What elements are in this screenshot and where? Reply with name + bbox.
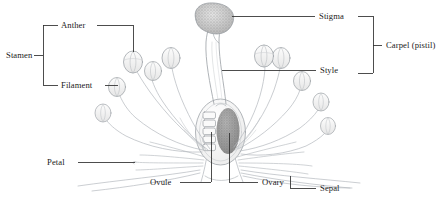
label-sepal: Sepal xyxy=(320,184,340,193)
label-anther: Anther xyxy=(61,21,85,30)
label-ovary: Ovary xyxy=(262,178,284,187)
anther-leader xyxy=(97,25,133,52)
label-stigma: Stigma xyxy=(319,12,344,21)
label-stamen: Stamen xyxy=(6,51,32,60)
ovary-leader xyxy=(229,133,258,182)
label-petal: Petal xyxy=(47,158,65,167)
label-ovule: Ovule xyxy=(150,178,172,187)
label-style: Style xyxy=(320,66,338,75)
flower-anatomy-diagram: Stamen Anther Filament Stigma Carpel (pi… xyxy=(0,0,438,212)
leader-lines xyxy=(0,0,438,212)
label-carpel: Carpel (pistil) xyxy=(386,41,435,50)
ovule-leader xyxy=(180,132,211,182)
sepal-leader xyxy=(290,176,316,188)
label-filament: Filament xyxy=(61,81,92,90)
